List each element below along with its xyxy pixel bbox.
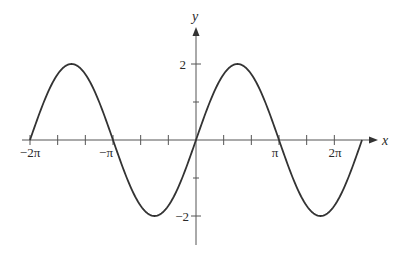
x-tick-label-neg-pi: −π (99, 145, 113, 160)
y-tick-label-neg2: −2 (175, 209, 189, 224)
y-tick-label-2: 2 (180, 57, 187, 72)
x-axis-arrow-icon (369, 137, 378, 144)
x-axis-label: x (381, 133, 389, 148)
sine-graph: x y −2π −π π 2π 2 −2 (0, 0, 408, 262)
y-axis-label: y (190, 9, 199, 24)
x-tick-label-two-pi: 2π (328, 145, 342, 160)
y-axis-arrow-icon (193, 27, 200, 36)
x-tick-label-neg-two-pi: −2π (20, 145, 41, 160)
x-tick-label-pi: π (272, 145, 279, 160)
